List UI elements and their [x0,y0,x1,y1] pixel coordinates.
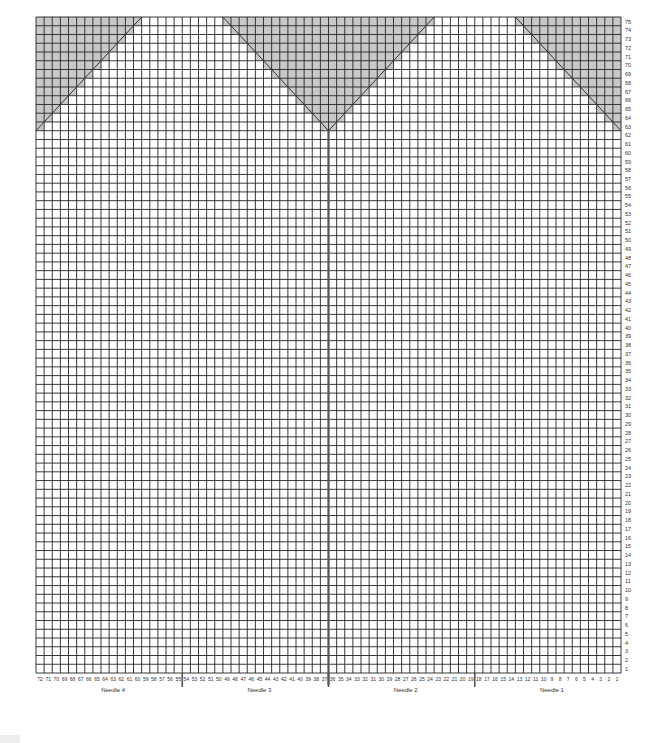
shaded-cell [304,78,312,87]
shaded-cell [605,26,613,35]
shaded-cell [255,34,263,43]
shaded-cell [580,17,588,26]
shaded-cell [572,61,580,70]
stitch-label: 70 [54,676,60,682]
shaded-cell [93,34,101,43]
shaded-cell [264,26,272,35]
shaded-cell [36,113,44,122]
shaded-cell [312,61,320,70]
shaded-cell [69,43,77,52]
shaded-cell [77,69,85,78]
shaded-cell [580,34,588,43]
shaded-cell [361,61,369,70]
stitch-label: 63 [110,676,116,682]
row-label: 51 [625,228,631,234]
shaded-cell [361,52,369,61]
shaded-cell [345,17,353,26]
row-label: 57 [625,176,631,182]
stitch-label: 21 [452,676,458,682]
stitch-label: 14 [509,676,515,682]
shaded-cell [613,17,621,26]
shaded-cell [540,34,548,43]
shaded-cell [394,17,402,26]
shaded-cell [548,26,556,35]
shaded-cell [312,96,320,105]
shaded-cell [345,87,353,96]
shaded-cell [580,69,588,78]
shaded-cell [247,26,255,35]
shaded-cell [597,61,605,70]
needle-3-label: Needle 3 [247,687,272,693]
stitch-label: 13 [517,676,523,682]
shaded-cell [589,87,597,96]
shaded-cell [613,26,621,35]
shaded-cell [337,78,345,87]
shaded-cell [280,34,288,43]
shaded-cell [613,61,621,70]
needle-2-label: Needle 2 [394,687,419,693]
shaded-cell [288,26,296,35]
shaded-cell [402,17,410,26]
shaded-cell [556,43,564,52]
shaded-cell [329,52,337,61]
needle-dividers [182,131,475,687]
shaded-cell [361,34,369,43]
shaded-cell [312,78,320,87]
shaded-cell [548,34,556,43]
shaded-cell [69,52,77,61]
shaded-cell [52,78,60,87]
row-label: 63 [625,124,631,130]
shaded-cell [36,61,44,70]
shaded-cell [524,17,532,26]
shaded-cell [304,34,312,43]
stitch-label: 6 [575,676,578,682]
shaded-cell [85,43,93,52]
shaded-cell [572,69,580,78]
shaded-cell [304,69,312,78]
shaded-cell [597,43,605,52]
shaded-cell [589,61,597,70]
row-label: 7 [625,613,628,619]
stitch-label: 71 [45,676,51,682]
shaded-cell [345,43,353,52]
stitch-label: 29 [387,676,393,682]
row-label: 68 [625,80,631,86]
shaded-cell [572,26,580,35]
stitch-label: 46 [249,676,255,682]
stitch-label: 49 [224,676,230,682]
shaded-cell [353,34,361,43]
shaded-cell [613,96,621,105]
shaded-cell [77,43,85,52]
shaded-cell [296,17,304,26]
shaded-cell [394,34,402,43]
shaded-cell [613,113,621,122]
stitch-label: 10 [541,676,547,682]
shaded-cell [589,26,597,35]
shaded-cell [109,34,117,43]
shaded-cell [117,17,125,26]
row-label: 31 [625,403,631,409]
shaded-cell [353,17,361,26]
shaded-cell [60,17,68,26]
stitch-label: 5 [583,676,586,682]
shaded-cell [264,34,272,43]
shaded-cell [60,43,68,52]
shaded-cell [377,43,385,52]
shaded-cell [304,52,312,61]
shaded-cell [556,26,564,35]
shaded-cell [85,52,93,61]
shaded-cell [247,34,255,43]
shaded-cell [337,96,345,105]
row-label: 74 [625,27,631,33]
shaded-cell [280,52,288,61]
shaded-cell [572,43,580,52]
stitch-label: 48 [232,676,238,682]
stitch-label: 18 [476,676,482,682]
shaded-cell [101,34,109,43]
shaded-cell [605,69,613,78]
shaded-cell [613,104,621,113]
shaded-cell [101,17,109,26]
row-label: 34 [625,377,631,383]
row-label: 19 [625,508,631,514]
shaded-cell [337,69,345,78]
